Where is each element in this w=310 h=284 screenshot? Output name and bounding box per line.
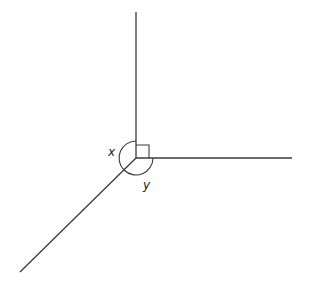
angle-x-label: x xyxy=(107,145,116,159)
right-angle-marker xyxy=(136,145,149,158)
ray-down-left xyxy=(20,158,136,272)
angle-y-arc xyxy=(124,158,153,175)
angle-y-label: y xyxy=(142,178,151,192)
angle-diagram: x y xyxy=(0,0,310,284)
